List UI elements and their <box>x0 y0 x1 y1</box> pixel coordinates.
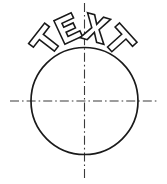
technical-drawing-canvas: TEXT <box>0 0 167 184</box>
arc-letter-t-2 <box>101 23 137 59</box>
arc-letter-e <box>54 13 82 45</box>
drawing-svg <box>0 0 167 184</box>
